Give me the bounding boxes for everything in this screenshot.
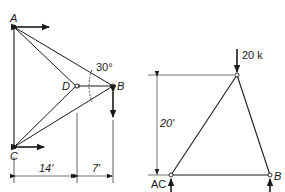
member-AD xyxy=(14,27,76,86)
left-truss xyxy=(12,25,115,183)
label-AC: AC xyxy=(151,178,166,190)
member-left-diagonal xyxy=(171,75,237,175)
diagram-canvas: A C D B 30° 14′ 7′ 20 k 20′ AC B xyxy=(0,0,285,192)
member-right-diagonal xyxy=(237,75,270,175)
joint-B xyxy=(111,84,115,88)
joint-C xyxy=(12,145,16,149)
angle-label: 30° xyxy=(96,61,113,73)
label-B: B xyxy=(117,80,124,92)
joint-D xyxy=(75,84,79,88)
load-label: 20 k xyxy=(242,49,263,61)
dimension-label-14: 14′ xyxy=(39,162,54,174)
label-A: A xyxy=(9,12,17,24)
joint-AC xyxy=(169,173,173,177)
member-AB xyxy=(14,27,113,86)
joint-A xyxy=(12,25,16,29)
member-CB xyxy=(14,86,113,147)
joint-apex xyxy=(235,73,239,77)
label-C: C xyxy=(10,150,18,162)
dimension-label-7: 7′ xyxy=(92,162,101,174)
label-B-right: B xyxy=(274,170,281,182)
dimension-label-20: 20′ xyxy=(159,117,175,129)
member-CD xyxy=(14,86,76,147)
label-D: D xyxy=(62,80,70,92)
joint-B-right xyxy=(268,173,272,177)
